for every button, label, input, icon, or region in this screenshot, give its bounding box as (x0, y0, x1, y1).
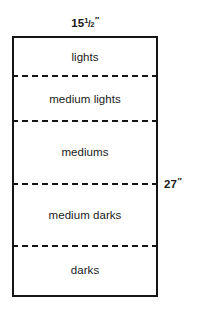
width-whole-number: 15 (71, 17, 84, 29)
band-medium-darks: medium darks (14, 184, 156, 246)
band-darks: darks (14, 246, 156, 295)
band-mediums: mediums (14, 121, 156, 184)
band-label: mediums (61, 145, 108, 159)
height-dimension-label: 27″ (164, 174, 181, 191)
sorting-rectangle: lights medium lights mediums medium dark… (12, 36, 158, 297)
height-inch-mark: ″ (177, 176, 181, 186)
width-dimension-label: 151/2″ (12, 13, 158, 31)
band-lights: lights (14, 38, 156, 76)
fabric-sorting-diagram: 151/2″ 27″ lights medium lights mediums … (0, 0, 199, 312)
band-label: darks (71, 263, 99, 277)
height-dimension-value: 27 (164, 178, 177, 190)
band-label: medium darks (49, 208, 122, 222)
band-stack: lights medium lights mediums medium dark… (14, 38, 156, 295)
band-label: lights (71, 50, 98, 64)
width-dimension-value: 151/2″ (71, 13, 98, 31)
width-inch-mark: ″ (94, 15, 98, 25)
band-label: medium lights (49, 92, 121, 106)
band-medium-lights: medium lights (14, 76, 156, 120)
